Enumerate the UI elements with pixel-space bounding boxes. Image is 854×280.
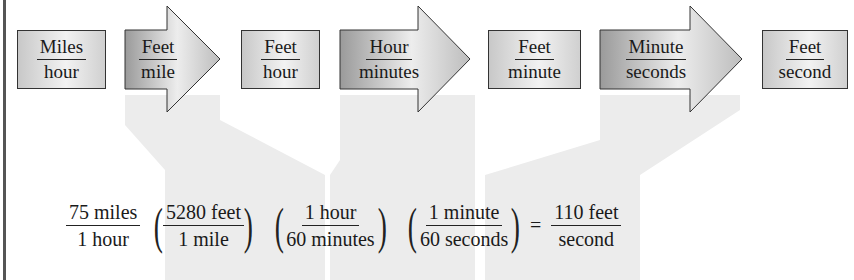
- unit-box-feet-per-hour: Feethour: [241, 30, 320, 89]
- fraction-numerator: 110 feet: [551, 200, 621, 226]
- equation-start-fraction: 75 miles1 hour: [66, 200, 140, 251]
- conversion-equation: 75 miles1 hour ( 5280 feet1 mile ) ( 1 h…: [66, 200, 621, 251]
- shade-band-2: [330, 95, 475, 280]
- unit-box-numerator: Feet: [515, 36, 554, 60]
- right-paren: ): [377, 201, 386, 251]
- fraction-denominator: 60 seconds: [417, 226, 511, 251]
- left-paren: (: [274, 201, 283, 251]
- conversion-factor-1: 5280 feet1 mile: [163, 200, 244, 251]
- right-paren: ): [244, 201, 253, 251]
- fraction-numerator: 5280 feet: [163, 200, 244, 226]
- equals-sign: =: [530, 214, 541, 237]
- fraction-numerator: 75 miles: [66, 200, 140, 226]
- left-paren: (: [408, 201, 417, 251]
- arrow-label-minute-per-seconds: Minuteseconds: [600, 30, 712, 89]
- fraction-denominator: 1 hour: [74, 226, 132, 251]
- fraction-denominator: 1 mile: [175, 226, 232, 251]
- unit-box-numerator: Feet: [261, 36, 300, 60]
- unit-box-denominator: hour: [260, 60, 301, 83]
- arrow-label-hour-per-minutes: Hourminutes: [340, 30, 438, 89]
- conversion-factor-3: 1 minute60 seconds: [417, 200, 511, 251]
- arrow-label-feet-per-mile: Feetmile: [125, 30, 191, 89]
- arrow-denominator: seconds: [623, 60, 689, 83]
- fraction-denominator: 60 minutes: [283, 226, 377, 251]
- arrow-numerator: Feet: [139, 36, 178, 60]
- unit-box-numerator: Feet: [786, 36, 825, 60]
- conversion-factor-2: 1 hour60 minutes: [283, 200, 377, 251]
- unit-box-feet-per-second: Feetsecond: [762, 30, 848, 89]
- unit-box-denominator: hour: [41, 60, 82, 83]
- arrow-numerator: Minute: [626, 36, 687, 60]
- fraction-numerator: 1 minute: [426, 200, 503, 226]
- equation-result-fraction: 110 feetsecond: [551, 200, 621, 251]
- arrow-denominator: mile: [138, 60, 178, 83]
- arrow-denominator: minutes: [356, 60, 422, 83]
- unit-box-numerator: Miles: [37, 36, 86, 60]
- unit-box-feet-per-minute: Feetminute: [488, 30, 581, 89]
- unit-box-miles-per-hour: Mileshour: [17, 30, 106, 89]
- fraction-denominator: second: [556, 226, 618, 251]
- arrow-numerator: Hour: [366, 36, 411, 60]
- right-paren: ): [511, 201, 520, 251]
- left-paren: (: [154, 201, 163, 251]
- unit-box-denominator: minute: [505, 60, 564, 83]
- unit-box-denominator: second: [776, 60, 835, 83]
- fraction-numerator: 1 hour: [302, 200, 360, 226]
- shade-band-3: [485, 95, 740, 280]
